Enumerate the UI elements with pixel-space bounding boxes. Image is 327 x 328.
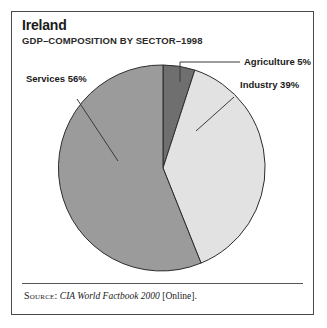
label-industry: Industry 39% xyxy=(240,79,300,90)
source-divider xyxy=(22,283,303,284)
pie-chart: Agriculture 5% Industry 39% Services 56% xyxy=(0,0,327,328)
figure-panel: Ireland GDP–COMPOSITION BY SECTOR–1998 A… xyxy=(0,0,327,328)
source-note: Source: CIA World Factbook 2000 [Online]… xyxy=(24,290,197,301)
label-services: Services 56% xyxy=(26,73,87,84)
source-medium: [Online]. xyxy=(162,291,197,301)
label-agriculture: Agriculture 5% xyxy=(244,56,312,67)
source-publication: CIA World Factbook 2000 xyxy=(60,291,160,301)
source-label: Source: xyxy=(24,290,57,301)
